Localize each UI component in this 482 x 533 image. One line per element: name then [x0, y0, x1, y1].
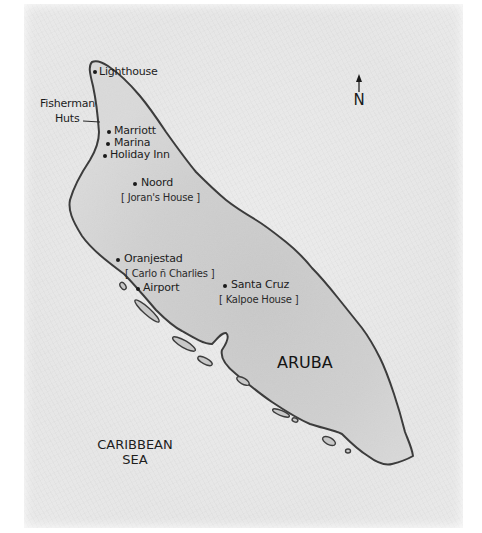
- santa-cruz-dot: [223, 284, 227, 288]
- marriott-dot: [107, 130, 111, 134]
- note-jorans-house: [ Joran's House ]: [121, 191, 200, 204]
- callout-fisherman: Fisherman: [40, 97, 95, 110]
- sea-label-line2: SEA: [95, 452, 175, 467]
- noord-dot: [133, 182, 137, 186]
- island-name: ARUBA: [277, 354, 333, 372]
- north-label: N: [349, 92, 369, 109]
- place-oranjestad: Oranjestad: [124, 252, 182, 265]
- airport-dot: [136, 287, 140, 291]
- place-holiday-inn: Holiday Inn: [110, 148, 170, 161]
- holiday-inn-dot: [103, 154, 107, 158]
- compass: N: [349, 74, 369, 114]
- oranjestad-dot: [116, 258, 120, 262]
- note-kalpoe-house: [ Kalpoe House ]: [219, 293, 298, 306]
- island-outline-map: [0, 0, 482, 533]
- sea-label-line1: CARIBBEAN: [95, 437, 175, 452]
- lighthouse-dot: [93, 70, 97, 74]
- note-carlo-n-charlies: [ Carlo ñ Charlies ]: [125, 267, 214, 280]
- callout-huts: Huts: [55, 112, 80, 125]
- place-airport: Airport: [143, 281, 179, 294]
- place-lighthouse: Lighthouse: [99, 65, 158, 78]
- place-santa-cruz: Santa Cruz: [231, 278, 289, 291]
- place-noord: Noord: [141, 176, 173, 189]
- marina-dot: [106, 142, 110, 146]
